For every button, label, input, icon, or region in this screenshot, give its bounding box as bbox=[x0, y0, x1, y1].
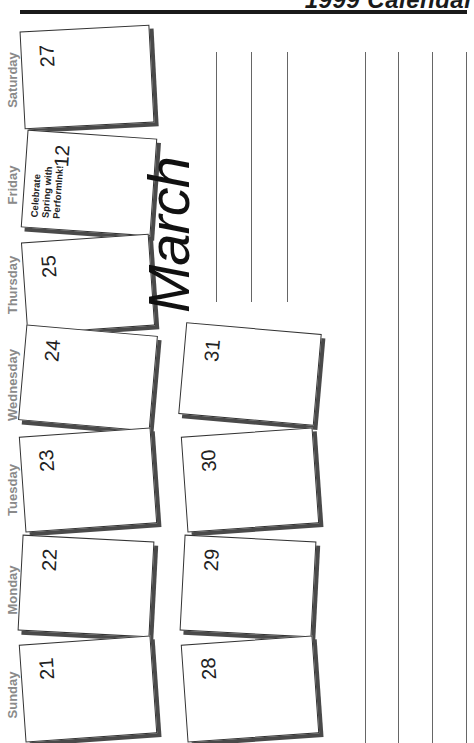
writing-line bbox=[432, 52, 433, 743]
date-number: 31 bbox=[200, 338, 225, 362]
date-number: 29 bbox=[200, 548, 224, 571]
date-card-29[interactable]: 29 bbox=[180, 535, 317, 638]
date-number: 23 bbox=[35, 449, 59, 473]
date-card-31[interactable]: 31 bbox=[178, 322, 322, 426]
date-card-21[interactable]: 21 bbox=[19, 636, 158, 743]
writing-line bbox=[251, 52, 252, 302]
date-card-23[interactable]: 23 bbox=[19, 428, 157, 533]
header-rule bbox=[20, 10, 467, 14]
date-number: 22 bbox=[38, 548, 62, 571]
day-label-friday: Friday bbox=[1, 145, 23, 225]
date-card-28[interactable]: 28 bbox=[181, 636, 320, 743]
date-card-22[interactable]: 22 bbox=[18, 535, 155, 638]
writing-line bbox=[466, 52, 467, 743]
event-note: Celebrate Spring with PerformInk! bbox=[28, 164, 65, 220]
date-number: 27 bbox=[35, 44, 59, 67]
month-title: March bbox=[138, 145, 198, 325]
date-number: 30 bbox=[197, 449, 221, 473]
writing-line bbox=[216, 52, 217, 302]
date-card-24[interactable]: 24 bbox=[18, 324, 158, 431]
writing-line bbox=[365, 52, 366, 743]
date-number: 24 bbox=[40, 339, 65, 363]
date-card-27[interactable]: 27 bbox=[20, 25, 155, 130]
date-number: 21 bbox=[35, 657, 59, 681]
date-card-30[interactable]: 30 bbox=[181, 428, 319, 533]
day-label-thursday: Thursday bbox=[1, 245, 23, 325]
writing-line bbox=[398, 52, 399, 743]
date-number: 28 bbox=[197, 657, 221, 681]
date-number: 25 bbox=[37, 255, 61, 279]
writing-line bbox=[287, 52, 288, 302]
